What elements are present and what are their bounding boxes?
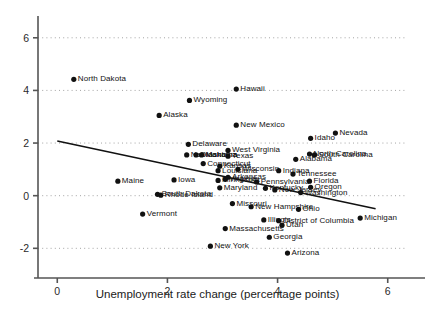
point-label: Georgia [273,233,302,241]
data-point [285,250,290,255]
x-tick-label: 6 [358,285,418,297]
data-point [234,87,239,92]
data-point [187,98,192,103]
data-point [140,212,145,217]
point-label: Vermont [147,210,178,218]
data-point [171,177,176,182]
data-point [157,113,162,118]
data-point [261,217,266,222]
data-point [71,77,76,82]
point-label: North Dakota [78,75,126,83]
data-point [186,142,191,147]
data-point [201,161,206,166]
y-tick-label: 2 [0,137,29,149]
point-label: Arizona [291,249,319,257]
point-label: Ohio [303,205,320,213]
point-label: Iowa [178,176,195,184]
y-tick-label: 0 [0,190,29,202]
y-tick-label: 4 [0,84,29,96]
y-tick-label: 6 [0,32,29,44]
x-tick-label: 2 [137,285,197,297]
point-label: Nevada [339,129,367,137]
point-label: Idaho [315,134,336,142]
point-label: Alaska [163,111,188,119]
point-label: Maine [122,177,144,185]
data-point [115,179,120,184]
point-label: Delaware [192,140,227,148]
data-point [217,185,222,190]
x-tick-label: 4 [248,285,308,297]
data-point [263,186,268,191]
point-label: Rhode Island [165,191,213,199]
data-point [215,178,220,183]
point-label: Washington [305,189,348,197]
point-label: New Mexico [240,121,285,129]
point-label: Alabama [300,155,332,163]
data-point [358,215,363,220]
y-tick-label: -2 [0,242,29,254]
point-label: Hawaii [240,85,265,93]
scatter-chart: Unemployment rate change (percentage poi… [0,0,435,317]
point-label: Michigan [364,214,397,222]
x-tick-label: 0 [27,285,87,297]
data-point [308,136,313,141]
data-point [208,244,213,249]
point-label: Utah [286,221,303,229]
data-point [267,235,272,240]
data-point [234,123,239,128]
data-point [223,226,228,231]
data-point [184,152,189,157]
point-label: Maryland [224,184,258,192]
data-point [230,201,235,206]
point-label: New York [214,242,249,250]
data-point [215,168,220,173]
point-label: Wyoming [193,96,227,104]
data-point [293,157,298,162]
